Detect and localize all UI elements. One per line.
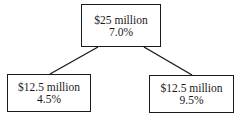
- root-rate: 7.0%: [109, 26, 133, 38]
- right-amount: $12.5 million: [161, 82, 223, 94]
- left-amount: $12.5 million: [18, 81, 80, 93]
- edge-root-to-right: [144, 47, 192, 75]
- left-rate: 4.5%: [37, 93, 61, 105]
- root-amount: $25 million: [94, 14, 147, 26]
- edge-root-to-left: [50, 47, 98, 74]
- right-rate: 9.5%: [180, 94, 204, 106]
- left-child-node: $12.5 million 4.5%: [7, 74, 91, 112]
- right-child-node: $12.5 million 9.5%: [149, 75, 234, 113]
- root-node: $25 million 7.0%: [81, 4, 161, 47]
